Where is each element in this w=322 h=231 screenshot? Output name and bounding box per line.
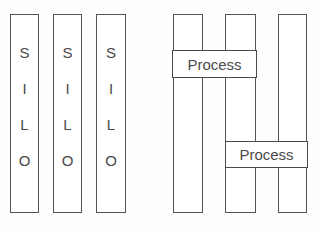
silo-3-letter-3: L <box>107 117 115 132</box>
silo-bar-3[interactable]: S I L O <box>96 14 126 213</box>
silo-2-letter-3: L <box>63 117 71 132</box>
diagram-canvas: S I L O S I L O S I L O Process Process <box>0 0 322 231</box>
silo-2-letter-4: O <box>62 153 74 168</box>
process-lane-2[interactable] <box>225 14 256 213</box>
silo-1-letter-4: O <box>19 153 31 168</box>
process-box-2[interactable]: Process <box>225 141 308 168</box>
silo-bar-1[interactable]: S I L O <box>10 14 39 213</box>
silo-3-letter-2: I <box>109 81 113 96</box>
silo-3-letters: S I L O <box>105 45 117 189</box>
process-box-1-label: Process <box>187 56 241 73</box>
silo-3-letter-1: S <box>106 45 116 60</box>
silo-3-letter-4: O <box>105 153 117 168</box>
silo-2-letter-2: I <box>65 81 69 96</box>
process-lane-3[interactable] <box>278 14 307 213</box>
silo-2-letter-1: S <box>62 45 72 60</box>
silo-1-letters: S I L O <box>19 45 31 189</box>
process-box-2-label: Process <box>239 146 293 163</box>
silo-1-letter-3: L <box>20 117 28 132</box>
silo-1-letter-2: I <box>22 81 26 96</box>
silo-1-letter-1: S <box>19 45 29 60</box>
silo-bar-2[interactable]: S I L O <box>53 14 82 213</box>
process-box-1[interactable]: Process <box>172 50 257 78</box>
silo-2-letters: S I L O <box>62 45 74 189</box>
process-lane-1[interactable] <box>173 14 203 213</box>
